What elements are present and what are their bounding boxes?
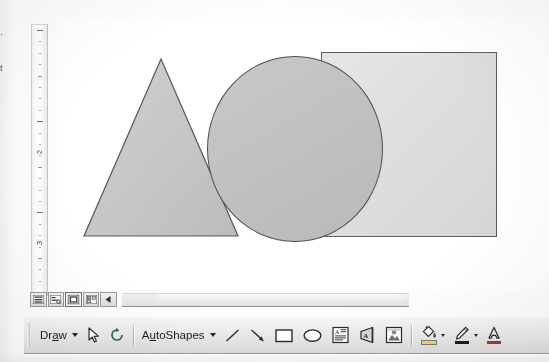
ruler-tick	[39, 87, 41, 88]
ruler-tick	[39, 190, 41, 191]
view-button-slide-sorter[interactable]	[83, 292, 100, 307]
line-color-stack	[453, 326, 471, 344]
view-button-normal[interactable]	[30, 292, 47, 307]
ruler-tick	[39, 281, 41, 282]
ruler-tick	[38, 76, 42, 77]
ruler-tick	[39, 110, 41, 111]
ruler-tick	[39, 155, 41, 156]
line-icon	[224, 327, 241, 344]
insert-picture-button[interactable]	[381, 320, 407, 350]
slide-view-icon	[68, 295, 79, 304]
fill-color-swatch	[421, 340, 437, 345]
toolbar-separator	[411, 325, 412, 345]
font-color-swatch	[487, 341, 501, 344]
line-color-swatch	[455, 341, 469, 344]
drawing-toolbar: Draw AutoShapes	[24, 316, 549, 354]
ruler-tick	[39, 224, 41, 225]
wordart-tool-button[interactable]: A	[354, 320, 381, 350]
view-button-slide-show[interactable]	[100, 292, 117, 307]
slide-sorter-icon	[86, 295, 97, 304]
svg-text:A: A	[335, 328, 340, 335]
scrollbar-thumb[interactable]	[156, 294, 406, 306]
slide-show-icon	[104, 295, 113, 304]
outline-view-icon	[50, 295, 61, 304]
arrow-tool-button[interactable]	[245, 320, 270, 350]
svg-text:A: A	[363, 332, 368, 340]
chevron-down-icon	[441, 334, 445, 337]
oval-icon	[302, 327, 323, 344]
presentation-editor-window: · t 2 3	[0, 0, 549, 362]
ruler-tick	[39, 53, 41, 54]
draw-menu-label: Draw	[40, 329, 67, 341]
vertical-ruler[interactable]: 2 3	[31, 24, 48, 296]
view-buttons-bar	[30, 292, 118, 307]
ruler-tick	[39, 235, 41, 236]
ruler-tick	[39, 144, 41, 145]
ruler-tick	[37, 30, 43, 31]
ruler-tick	[39, 178, 41, 179]
font-color-stack	[486, 326, 502, 344]
line-tool-button[interactable]	[220, 320, 245, 350]
font-color-button[interactable]	[482, 320, 506, 350]
cursor-arrow-icon	[86, 327, 101, 344]
line-color-button[interactable]	[449, 320, 482, 350]
free-rotate-button[interactable]	[105, 320, 129, 350]
view-button-outline[interactable]	[48, 292, 65, 307]
autoshapes-menu-label: AutoShapes	[142, 329, 205, 341]
arrow-icon	[249, 327, 266, 344]
picture-icon	[385, 326, 403, 344]
free-rotate-icon	[109, 327, 125, 343]
ruler-tick	[39, 133, 41, 134]
slide-canvas[interactable]	[57, 18, 549, 290]
rectangle-tool-button[interactable]	[270, 320, 298, 350]
text-box-tool-button[interactable]: A	[327, 320, 354, 350]
ruler-tick	[39, 247, 41, 248]
ruler-tick	[38, 258, 42, 259]
chevron-down-icon	[72, 333, 78, 337]
fill-color-button[interactable]	[416, 320, 449, 350]
ruler-label-2: 2	[36, 150, 44, 154]
ruler-tick	[39, 64, 41, 65]
draw-menu-button[interactable]: Draw	[36, 320, 82, 350]
wordart-icon: A	[358, 326, 377, 344]
fill-color-stack	[420, 325, 438, 345]
chevron-down-icon	[210, 333, 216, 337]
autoshapes-menu-button[interactable]: AutoShapes	[138, 320, 220, 350]
toolbar-separator	[133, 325, 134, 345]
ruler-tick	[39, 41, 41, 42]
font-color-a-icon	[486, 326, 502, 340]
left-margin-text-fragment: t	[0, 62, 9, 73]
text-box-icon: A	[331, 326, 350, 344]
oval-tool-button[interactable]	[298, 320, 327, 350]
ruler-tick	[38, 167, 42, 168]
horizontal-scrollbar[interactable]	[122, 293, 409, 307]
shape-circle[interactable]	[207, 56, 383, 242]
paint-bucket-icon	[420, 325, 438, 339]
ruler-tick	[37, 212, 43, 213]
ruler-tick	[37, 121, 43, 122]
view-button-slide[interactable]	[65, 292, 82, 307]
ruler-tick	[39, 269, 41, 270]
select-objects-button[interactable]	[82, 320, 105, 350]
pen-icon	[453, 326, 471, 340]
left-margin-text-fragment: ·	[0, 29, 9, 40]
normal-view-icon	[33, 295, 44, 304]
ruler-label-3: 3	[36, 241, 44, 245]
ruler-tick	[39, 98, 41, 99]
ruler-tick	[39, 201, 41, 202]
rectangle-icon	[274, 327, 294, 344]
chevron-down-icon	[474, 334, 478, 337]
